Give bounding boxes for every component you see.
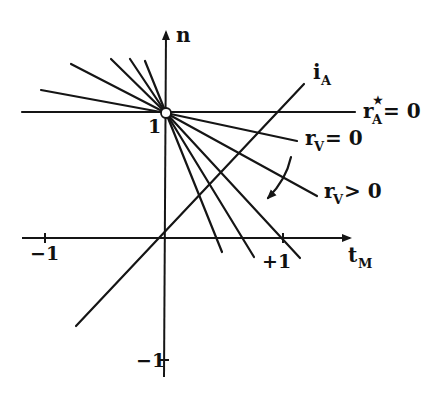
svg-text:M: M [358, 256, 372, 271]
svg-text:V: V [332, 192, 344, 207]
x-tick-label-plus1: +1 [262, 250, 291, 272]
x-axis-label: t M [348, 243, 372, 271]
label-rV-zero: r V = 0 [305, 126, 363, 154]
svg-text:t: t [348, 243, 358, 267]
y-axis-label: n [176, 23, 191, 47]
svg-text:A: A [371, 112, 383, 127]
svg-text:= 0: = 0 [383, 99, 421, 123]
fan-lines [41, 59, 317, 258]
diagram: n 1 −1 −1 +1 t M i A r A ★ = 0 r V = 0 r… [0, 0, 436, 397]
svg-text:i: i [313, 60, 321, 84]
svg-text:> 0: > 0 [344, 179, 382, 203]
line-rV-zero [166, 113, 297, 141]
label-rA-star-zero: r A ★ = 0 [363, 94, 421, 127]
svg-text:V: V [313, 139, 325, 154]
pivot-point [161, 108, 171, 118]
line-iA [76, 84, 304, 326]
x-axis [22, 233, 350, 243]
line-rV-positive [166, 113, 317, 196]
svg-text:= 0: = 0 [325, 126, 363, 150]
svg-text:A: A [320, 73, 332, 88]
x-tick-label-minus1: −1 [30, 242, 59, 264]
y-tick-label-1: 1 [148, 115, 161, 137]
rotation-arrow-icon [268, 157, 291, 198]
y-tick-label-minus1: −1 [136, 349, 165, 371]
label-rV-positive: r V > 0 [324, 179, 382, 207]
svg-text:★: ★ [373, 94, 383, 107]
y-axis [159, 32, 169, 377]
label-iA: i A [313, 60, 332, 88]
